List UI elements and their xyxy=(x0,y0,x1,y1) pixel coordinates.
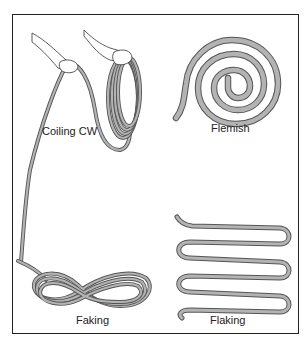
rope-illustrations: .rope-o { fill: none; stroke: #555; stro… xyxy=(0,0,308,347)
flemish-illustration xyxy=(176,40,278,124)
faking-label: Faking xyxy=(76,314,109,326)
right-hand-icon xyxy=(113,50,132,65)
faking-illustration xyxy=(18,261,150,306)
coiling-illustration xyxy=(21,30,140,262)
flaking-illustration xyxy=(177,217,289,318)
coiling-label: Coiling CW xyxy=(42,125,97,137)
flaking-label: Flaking xyxy=(210,314,245,326)
left-hand-icon xyxy=(59,60,78,73)
flemish-label: Flemish xyxy=(211,122,250,134)
